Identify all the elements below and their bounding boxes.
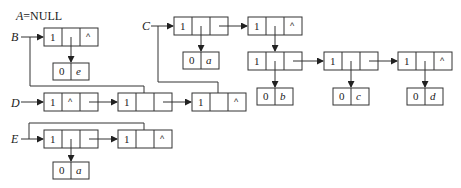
svg-text:b: b — [280, 90, 286, 102]
svg-text:1: 1 — [330, 55, 336, 67]
svg-text:0: 0 — [339, 90, 345, 102]
svg-text:1: 1 — [198, 96, 204, 108]
node-b1-tag: 1 — [50, 31, 56, 43]
svg-text:a: a — [206, 54, 212, 66]
svg-text:1: 1 — [254, 20, 260, 32]
atom-r-d: 0 d — [407, 88, 443, 105]
svg-text:0: 0 — [189, 54, 195, 66]
svg-text:1: 1 — [404, 55, 410, 67]
atom-b-e: 0 e — [53, 63, 89, 80]
atom-c-a: 0 a — [183, 52, 219, 69]
svg-text:1: 1 — [50, 96, 56, 108]
svg-text:a: a — [76, 164, 82, 176]
svg-text:0: 0 — [413, 90, 419, 102]
atom-r-c: 0 c — [333, 88, 369, 105]
svg-text:0: 0 — [263, 90, 269, 102]
svg-text:1: 1 — [124, 96, 130, 108]
svg-text:c: c — [356, 90, 361, 102]
svg-text:e: e — [76, 65, 81, 77]
generalized-list-diagram: A=NULL B 1 ^ 0 e C 1 0 a 1 ^ — [0, 0, 461, 188]
svg-text:1: 1 — [124, 133, 130, 145]
label-c: C — [142, 19, 151, 33]
label-b: B — [11, 30, 19, 44]
svg-text:0: 0 — [59, 164, 65, 176]
svg-text:1: 1 — [180, 20, 186, 32]
atom-e-a: 0 a — [53, 162, 89, 179]
svg-text:1: 1 — [50, 133, 56, 145]
node-e2: 1 ^ — [118, 130, 172, 148]
atom-r-b: 0 b — [257, 88, 293, 105]
node-d3: 1 ^ — [192, 93, 246, 111]
svg-text:0: 0 — [59, 65, 65, 77]
label-d: D — [10, 96, 20, 110]
label-a-null: A=NULL — [15, 9, 62, 23]
label-e: E — [10, 132, 19, 146]
svg-text:1: 1 — [254, 55, 260, 67]
svg-text:d: d — [430, 90, 436, 102]
